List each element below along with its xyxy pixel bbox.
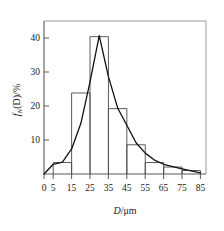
histogram-bar xyxy=(90,37,108,174)
histogram-bar xyxy=(145,163,163,174)
y-axis-title: fN(D)/% xyxy=(11,84,24,116)
x-tick-label: 5 xyxy=(51,183,56,193)
figure-container: 10 20 30 40 0 5 15 25 35 45 55 6 xyxy=(0,0,224,231)
particle-size-distribution-chart: 10 20 30 40 0 5 15 25 35 45 55 6 xyxy=(0,0,224,231)
plot-frame xyxy=(44,21,206,174)
x-tick-label: 75 xyxy=(177,183,187,193)
y-tick-label: 30 xyxy=(31,67,41,77)
x-tick-label: 55 xyxy=(140,183,150,193)
x-tick-label: 25 xyxy=(85,183,95,193)
x-axis-tick-labels: 0 5 15 25 35 45 55 65 75 85 xyxy=(42,183,206,193)
y-axis-title-rest: (D)/% xyxy=(11,84,23,109)
y-tick-label: 10 xyxy=(31,135,41,145)
histogram-bar xyxy=(108,109,126,174)
x-tick-label: 85 xyxy=(196,183,206,193)
y-tick-label: 40 xyxy=(31,33,41,43)
histogram-bar xyxy=(72,93,90,174)
x-tick-label: 0 xyxy=(42,183,47,193)
x-axis-title-unit: /μm xyxy=(121,205,137,216)
y-axis-tick-labels: 10 20 30 40 xyxy=(31,33,41,145)
x-tick-label: 15 xyxy=(67,183,77,193)
y-axis-ticks xyxy=(44,38,49,140)
x-tick-label: 35 xyxy=(104,183,114,193)
histogram-bars xyxy=(53,37,200,174)
x-tick-label: 65 xyxy=(159,183,169,193)
x-axis-title: D/μm xyxy=(112,205,136,216)
fitted-curve xyxy=(44,36,200,174)
x-tick-label: 45 xyxy=(122,183,132,193)
x-axis-ticks xyxy=(44,174,200,179)
y-tick-label: 20 xyxy=(31,101,41,111)
